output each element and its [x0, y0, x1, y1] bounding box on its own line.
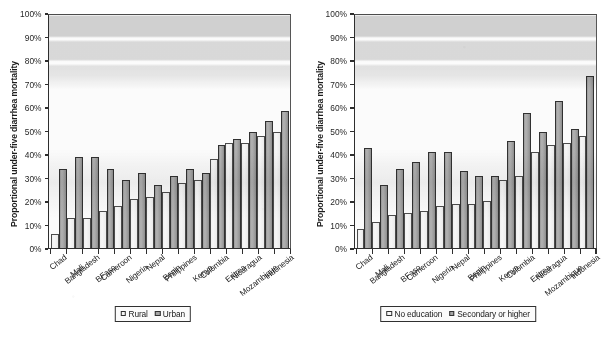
y-axis-tick: 10% [0, 221, 48, 231]
bar-group [114, 15, 130, 248]
y-axis-tick-label: 30% [330, 174, 350, 184]
x-axis-label: Chad [48, 253, 69, 272]
bar [257, 136, 265, 248]
bar [154, 185, 162, 248]
bar-group [499, 15, 515, 248]
y-axis-tick-label: 0% [335, 244, 350, 254]
bar-group [162, 15, 178, 248]
legend-swatch [155, 311, 161, 317]
y-axis-tick-label: 20% [330, 197, 350, 207]
y-axis-tick-label: 10% [330, 221, 350, 231]
y-axis-tick: 70% [306, 80, 354, 90]
legend-swatch [449, 311, 455, 317]
y-axis-tick-label: 50% [25, 127, 45, 137]
bar-group [225, 15, 241, 248]
bar [539, 132, 547, 249]
x-axis-label: Nepal [450, 253, 472, 273]
bar [75, 157, 83, 248]
bar [491, 176, 499, 248]
bar-group [547, 15, 563, 248]
y-axis-tick: 30% [306, 174, 354, 184]
bar-group [178, 15, 194, 248]
y-axis-tick: 70% [0, 80, 48, 90]
bar [273, 132, 281, 249]
y-axis-tick: 60% [0, 103, 48, 113]
bar-group [67, 15, 83, 248]
bar [412, 162, 420, 248]
bar [444, 152, 452, 248]
bar-group [563, 15, 579, 248]
plot-area-left [48, 14, 291, 249]
y-axis-tick-label: 80% [330, 56, 350, 66]
bar [563, 143, 571, 248]
bar [571, 129, 579, 248]
y-axis-tick: 20% [0, 197, 48, 207]
y-axis-tick-mark [45, 60, 49, 61]
y-axis-tick-mark [350, 178, 354, 179]
y-axis-tick-label: 40% [330, 150, 350, 160]
y-axis-tick: 50% [0, 127, 48, 137]
x-axis-labels-left: ChadMaliBangladeshBFasoCameroonNigeriaNe… [48, 251, 291, 309]
y-axis-tick-mark [45, 107, 49, 108]
bar [579, 136, 587, 248]
bar-group [241, 15, 257, 248]
y-axis-tick-label: 70% [330, 80, 350, 90]
bar [436, 206, 444, 248]
bar [99, 211, 107, 248]
bar [531, 152, 539, 248]
y-axis-tick-mark [350, 225, 354, 226]
bar-group [146, 15, 162, 248]
y-axis-tick-label: 70% [25, 80, 45, 90]
bar [83, 218, 91, 248]
bar [91, 157, 99, 248]
y-axis-tick-mark [350, 60, 354, 61]
y-axis-tick-label: 100% [326, 9, 350, 19]
y-axis-tick: 100% [306, 9, 354, 19]
legend-label: No education [394, 309, 442, 319]
y-axis-tick-mark [350, 131, 354, 132]
legend-label: Rural [129, 309, 148, 319]
bar [186, 169, 194, 248]
y-axis-tick-mark [350, 201, 354, 202]
bar-group-container-left [49, 15, 290, 248]
bar [460, 171, 468, 248]
bar-group [531, 15, 547, 248]
bar [233, 139, 241, 249]
bar [138, 173, 146, 248]
bar-group [273, 15, 289, 248]
plot-area-right [354, 14, 597, 249]
bar [452, 204, 460, 248]
y-axis-tick: 20% [306, 197, 354, 207]
bar-group [452, 15, 468, 248]
y-axis-tick-label: 10% [25, 221, 45, 231]
y-axis-tick-mark [350, 37, 354, 38]
bar-group [99, 15, 115, 248]
y-axis-tick: 0% [0, 244, 48, 254]
bar-group [515, 15, 531, 248]
bar [586, 76, 594, 248]
x-axis-label: Chad [354, 253, 375, 272]
bar [241, 143, 249, 248]
bar [420, 211, 428, 248]
y-axis-tick-mark [350, 154, 354, 155]
y-axis-tick: 50% [306, 127, 354, 137]
bar-group [404, 15, 420, 248]
x-axis-label: Nepal [144, 253, 166, 273]
bar [225, 143, 233, 248]
bar [249, 132, 257, 249]
y-axis-tick-mark [350, 107, 354, 108]
bar [388, 215, 396, 248]
legend-swatch [121, 311, 127, 317]
bar [523, 113, 531, 248]
y-axis-tick: 40% [0, 150, 48, 160]
bar-group [483, 15, 499, 248]
bar [67, 218, 75, 248]
bar [499, 180, 507, 248]
y-axis-tick: 90% [0, 33, 48, 43]
y-axis-tick-mark [45, 13, 49, 14]
legend-item: Urban [155, 309, 185, 319]
y-axis-tick-mark [45, 201, 49, 202]
bar [114, 206, 122, 248]
bar [468, 204, 476, 248]
bar [547, 145, 555, 248]
